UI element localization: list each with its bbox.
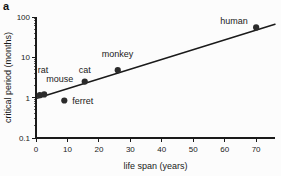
data-label-cat: cat <box>79 65 92 75</box>
x-axis-title: life span (years) <box>123 161 187 171</box>
scatter-plot: 0.1110100 010203040506070 ratmouseferret… <box>0 0 281 176</box>
y-axis-title: critical period (months) <box>3 32 13 123</box>
x-tick-label: 60 <box>220 145 229 154</box>
data-point-monkey <box>115 67 121 73</box>
x-tick-label: 40 <box>157 145 166 154</box>
data-label-mouse: mouse <box>46 74 73 84</box>
data-label-ferret: ferret <box>72 96 94 106</box>
data-point-cat <box>82 79 88 85</box>
data-point-human <box>253 24 259 30</box>
data-point-labels: ratmouseferretcatmonkeyhuman <box>38 16 248 105</box>
y-tick-label: 0.1 <box>19 134 31 143</box>
data-label-human: human <box>220 16 248 26</box>
y-axis-major-ticks: 0.1110100 <box>17 13 36 143</box>
x-tick-label: 70 <box>252 145 261 154</box>
x-axis-ticks: 010203040506070 <box>34 138 261 154</box>
data-point-ferret <box>61 97 67 103</box>
x-tick-label: 30 <box>126 145 135 154</box>
data-point-mouse <box>41 91 47 97</box>
figure-panel: a 0.1110100 010203040506070 ratmouseferr… <box>0 0 281 176</box>
x-tick-label: 20 <box>94 145 103 154</box>
data-label-monkey: monkey <box>102 49 134 59</box>
x-tick-label: 10 <box>63 145 72 154</box>
regression-line <box>36 24 275 98</box>
y-tick-label: 10 <box>21 53 30 62</box>
x-tick-label: 50 <box>189 145 198 154</box>
y-tick-label: 1 <box>26 94 31 103</box>
x-tick-label: 0 <box>34 145 39 154</box>
y-tick-label: 100 <box>17 13 31 22</box>
